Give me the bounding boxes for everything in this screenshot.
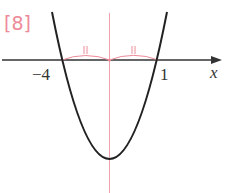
- left-distance-arc: [62, 56, 110, 60]
- symmetry-point: [108, 59, 111, 62]
- root-label-left: −4: [32, 66, 50, 83]
- left-equal-tick-icon: [84, 46, 87, 54]
- x-axis-label: x: [210, 64, 218, 81]
- right-equal-tick-icon: [132, 46, 135, 54]
- parabola-diagram: [0, 0, 229, 193]
- right-distance-arc: [110, 55, 159, 60]
- root-label-right: 1: [160, 66, 169, 83]
